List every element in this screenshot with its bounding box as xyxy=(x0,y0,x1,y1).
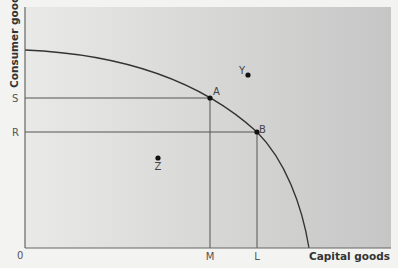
origin-label: 0 xyxy=(17,250,23,261)
point-Y-label: Y xyxy=(238,65,246,76)
point-Z xyxy=(155,155,160,160)
ppf-diagram: Consumer goods Capital goods 0 S R M L A… xyxy=(0,0,398,268)
y-tick-R: R xyxy=(12,127,19,138)
x-tick-L: L xyxy=(254,251,260,262)
y-tick-S: S xyxy=(12,93,18,104)
x-tick-M: M xyxy=(206,251,215,262)
point-A-label: A xyxy=(213,86,220,97)
point-Y xyxy=(245,72,250,77)
x-axis-title: Capital goods xyxy=(309,250,390,262)
plot-background xyxy=(25,7,391,248)
y-axis-title: Consumer goods xyxy=(8,0,20,88)
point-Z-label: Z xyxy=(155,161,162,172)
point-A xyxy=(207,95,212,100)
point-B-label: B xyxy=(259,124,266,135)
